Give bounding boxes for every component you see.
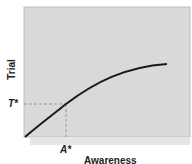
a-star-label: A* [60,144,71,155]
bottom-band [30,137,190,145]
t-star-label: T* [8,98,18,109]
x-axis-label: Awareness [84,155,137,164]
plot-svg [0,0,192,164]
y-axis-label: Trial [6,53,17,87]
chart: Trial T* A* Awareness [0,0,192,164]
